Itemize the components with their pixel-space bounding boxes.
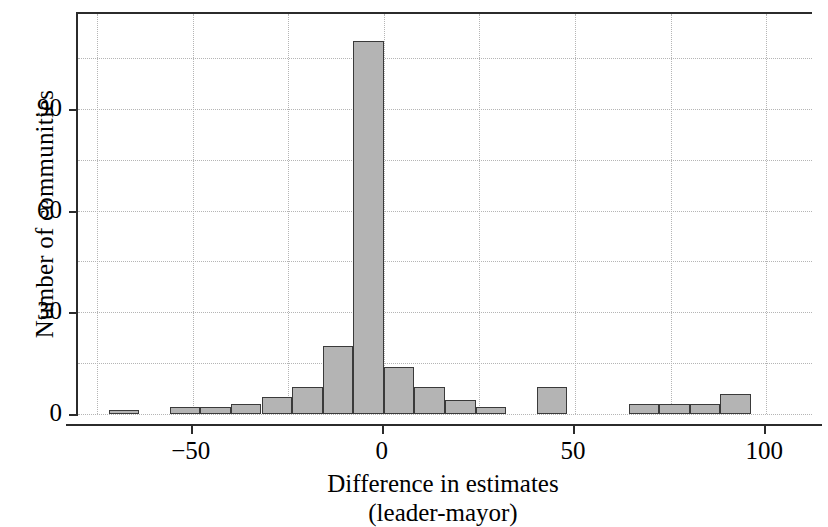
y-tick-label-60: 60 bbox=[10, 196, 62, 221]
histogram-bar bbox=[323, 346, 354, 414]
x-axis-line bbox=[66, 424, 822, 426]
x-tick-mark-50 bbox=[573, 424, 575, 434]
histogram-bar bbox=[445, 400, 476, 414]
histogram-bar bbox=[200, 407, 231, 414]
histogram-bar bbox=[629, 404, 660, 414]
histogram-bar bbox=[537, 387, 568, 414]
plot-area bbox=[76, 12, 812, 414]
histogram-bar bbox=[720, 394, 751, 414]
histogram-bar bbox=[690, 404, 721, 414]
y-tick-mark-90 bbox=[69, 109, 78, 111]
y-tick-label-0: 0 bbox=[10, 400, 62, 425]
histogram-bar bbox=[353, 41, 384, 414]
histogram-bars bbox=[78, 14, 812, 414]
histogram-bar bbox=[231, 404, 262, 414]
histogram-bar bbox=[292, 387, 323, 414]
x-tick-label-0: 0 bbox=[322, 437, 442, 465]
histogram-bar bbox=[476, 407, 507, 414]
x-tick-mark--50 bbox=[191, 424, 193, 434]
x-tick-label-50: 50 bbox=[513, 437, 633, 465]
histogram-bar bbox=[170, 407, 201, 414]
x-tick-label--50: −50 bbox=[131, 437, 251, 465]
y-tick-mark-60 bbox=[69, 211, 78, 213]
x-axis-title-line1: Difference in estimates bbox=[76, 470, 810, 499]
histogram-bar bbox=[109, 410, 140, 414]
x-tick-mark-0 bbox=[382, 424, 384, 434]
x-tick-mark-100 bbox=[764, 424, 766, 434]
x-axis-title: Difference in estimates (leader-mayor) bbox=[76, 470, 810, 527]
gridline-y-0 bbox=[78, 414, 812, 415]
y-tick-mark-0 bbox=[69, 414, 78, 416]
histogram-bar bbox=[262, 397, 293, 414]
histogram-bar bbox=[384, 367, 415, 414]
y-tick-label-30: 30 bbox=[10, 298, 62, 323]
histogram-bar bbox=[414, 387, 445, 414]
histogram-bar bbox=[659, 404, 690, 414]
x-axis-title-line2: (leader-mayor) bbox=[76, 499, 810, 527]
y-tick-label-90: 90 bbox=[10, 94, 62, 119]
x-tick-label-100: 100 bbox=[704, 437, 824, 465]
y-tick-mark-30 bbox=[69, 312, 78, 314]
y-axis-tick-labels: 0306090 bbox=[0, 0, 62, 527]
histogram-figure: Number of communities 0306090 −50050100 … bbox=[0, 0, 828, 527]
